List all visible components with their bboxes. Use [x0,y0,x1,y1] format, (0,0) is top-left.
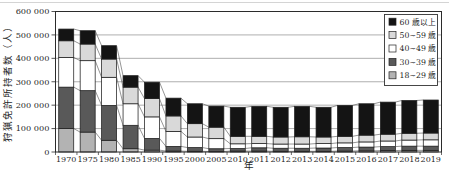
bar-segment [102,59,117,77]
bar-segment [252,148,267,151]
legend: 60 歳以上50~59 歳40~49 歳30~39 歳18~29 歳 [385,15,438,86]
bar-segment [209,139,224,149]
y-tick-label: 500 000 [16,30,50,40]
x-tick-label: 2015 [335,155,355,164]
bar-segment [359,147,374,151]
bar-segment [295,137,310,144]
bar-segment [80,44,95,61]
bar-segment [209,106,224,127]
connector-line [395,100,401,102]
bar-segment [209,127,224,138]
bar-segment [230,136,245,143]
bar-segment [59,129,74,152]
x-tick-label: 1980 [99,155,119,164]
x-tick-label: 2012 [270,155,290,164]
bar-segment [187,137,202,148]
connector-line [181,146,187,147]
connector-line [95,44,101,59]
legend-swatch [389,58,396,65]
connector-line [117,46,123,76]
connector-line [138,125,144,138]
connector-line [95,91,101,106]
bar-segment [59,41,74,58]
bar-segment [187,124,202,137]
connector-line [138,87,144,98]
x-tick-label: 1995 [163,155,183,164]
bar-segment [423,100,438,133]
bar-segment [209,149,224,152]
bar-segment [59,29,74,41]
bar-segment [102,140,117,152]
bar-segment [102,77,117,105]
connector-line [395,133,401,134]
bar-segment [123,87,138,104]
bar-segment [187,104,202,124]
connector-line [160,150,166,151]
connector-line [181,116,187,124]
bar-segment [338,148,353,152]
bar-segment [230,144,245,149]
bar-segment [166,146,181,151]
x-tick-label: 1970 [56,155,76,164]
connector-line [331,143,337,144]
bar-segment [59,57,74,87]
bar-segment [423,140,438,146]
bar-segment [230,148,245,151]
bar-segment [123,104,138,126]
y-tick-label: 100 000 [16,123,50,133]
x-tick-label: 2019 [421,155,441,164]
y-tick-label: 300 000 [16,77,50,87]
connector-line [160,82,166,98]
bar-segment [380,134,395,141]
connector-line [181,98,187,104]
connector-line [331,105,337,107]
bar-segment [402,100,417,133]
connector-line [267,136,273,137]
bar-segment [145,117,160,139]
bar-segment [252,106,267,136]
legend-swatch [389,18,396,25]
bar-segment [402,146,417,150]
legend-label: 18~29 歳 [400,70,437,80]
bar-segment [252,136,267,143]
connector-line [374,102,380,104]
bar-segment [166,116,181,131]
bar-segment [102,105,117,140]
bar-segment [402,140,417,146]
y-tick-label: 0 [44,147,49,157]
connector-line [74,129,80,133]
connector-line [74,57,80,60]
connector-line [288,106,294,107]
bar-segment [402,133,417,140]
bar-segment [295,148,310,151]
bar-segment [273,137,288,144]
x-tick-label: 1985 [120,155,140,164]
connector-line [117,59,123,87]
legend-swatch [389,32,396,39]
y-axis-title: 狩猟免許所持者数（人） [2,21,13,142]
x-axis-title: 年 [244,160,254,171]
bar-segment [80,132,95,152]
x-tick-label: 2017 [378,155,398,164]
x-tick-label: 2013 [292,155,312,164]
bar-segment [273,107,288,137]
bar-segment [102,46,117,59]
connector-line [331,136,337,137]
connector-line [202,124,208,128]
legend-label: 60 歳以上 [400,17,436,27]
bar-segment [316,148,331,151]
connector-line [374,134,380,135]
connector-line [117,140,123,148]
bar-segment [145,82,160,98]
bar-segment [80,91,95,132]
bar-segment [145,138,160,150]
x-tick-label: 2018 [399,155,419,164]
bar-segment [252,144,267,148]
connector-line [160,99,166,116]
legend-swatch [389,45,396,52]
bar-segment [338,136,353,143]
x-tick-label: 2000 [185,155,205,164]
bar-segment [316,137,331,144]
bar-segment [166,131,181,146]
bar-segment [187,148,202,152]
